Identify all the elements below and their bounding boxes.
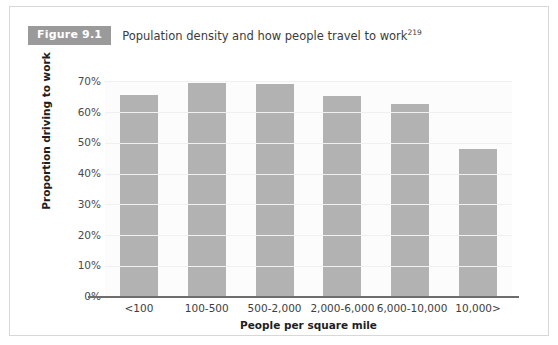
- y-axis-tick-40: 40%: [78, 168, 101, 179]
- plot-area: [105, 81, 512, 297]
- y-axis-tick-labels: 70%60%50%40%30%20%10%0%: [58, 75, 101, 303]
- bar-100-500: [188, 83, 226, 297]
- y-axis-title: Proportion driving to work: [40, 51, 52, 211]
- gridline: [105, 112, 512, 113]
- y-axis-tick-30: 30%: [78, 199, 101, 210]
- x-axis-tick-6,000-10,000: 6,000-10,000: [377, 302, 444, 316]
- gridline: [105, 235, 512, 236]
- figure-caption-row: Figure 9.1 Population density and how pe…: [28, 26, 422, 45]
- x-axis-line: [88, 296, 519, 298]
- y-axis-tick-20: 20%: [78, 230, 101, 241]
- figure-caption-text: Population density and how people travel…: [122, 29, 407, 43]
- x-axis-title: People per square mile: [105, 319, 512, 331]
- bar-10,000>: [459, 149, 497, 297]
- x-axis-tick-2,000-6,000: 2,000-6,000: [309, 302, 376, 316]
- bar-500-2,000: [256, 84, 294, 297]
- y-axis-tick-10: 10%: [78, 260, 101, 271]
- bar-6,000-10,000: [391, 104, 429, 297]
- y-axis-tick-70: 70%: [78, 76, 101, 87]
- x-axis-tick-100-500: 100-500: [173, 302, 240, 316]
- figure-number-badge: Figure 9.1: [28, 26, 111, 45]
- x-axis-tick-labels: <100100-500500-2,0002,000-6,0006,000-10,…: [105, 302, 512, 316]
- gridline: [105, 204, 512, 205]
- x-axis-tick-500-2,000: 500-2,000: [241, 302, 308, 316]
- gridline: [105, 174, 512, 175]
- figure-caption-reference: 219: [407, 28, 421, 37]
- gridline: [105, 81, 512, 82]
- x-axis-tick-<100: <100: [105, 302, 172, 316]
- gridline: [105, 266, 512, 267]
- x-axis-tick-10,000>: 10,000>: [445, 302, 512, 316]
- page-title: Population density and how people travel…: [122, 28, 422, 43]
- gridline: [105, 143, 512, 144]
- y-axis-tick-60: 60%: [78, 107, 101, 118]
- y-axis-tick-50: 50%: [78, 137, 101, 148]
- bar-series: [105, 81, 512, 297]
- figure-frame: Figure 9.1 Population density and how pe…: [9, 6, 549, 336]
